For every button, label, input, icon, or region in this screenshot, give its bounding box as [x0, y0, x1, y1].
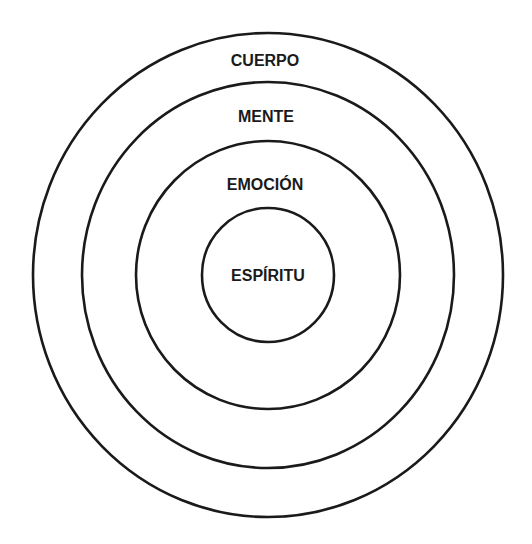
ring-label-espiritu: ESPÍRITU: [231, 266, 305, 284]
ring-label-emocion: EMOCIÓN: [227, 175, 303, 193]
concentric-circles-diagram: CUERPO MENTE EMOCIÓN ESPÍRITU: [0, 0, 532, 544]
ring-espiritu: ESPÍRITU: [202, 208, 334, 342]
ring-label-cuerpo: CUERPO: [231, 52, 299, 69]
ring-label-mente: MENTE: [238, 108, 294, 125]
